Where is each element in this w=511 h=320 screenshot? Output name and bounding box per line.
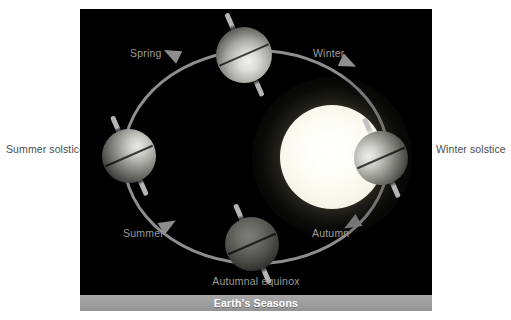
space-panel: Spring Winter Summer Autumn Autumnal equ…: [80, 9, 432, 295]
label-winter-solstice: Winter solstice: [436, 143, 506, 155]
label-summer: Summer: [123, 227, 164, 239]
caption-bar: Earth's Seasons: [80, 295, 432, 311]
earth-equator-line: [357, 147, 405, 170]
earth-equator-line: [228, 233, 276, 256]
label-winter: Winter: [313, 47, 345, 59]
label-autumnal-equinox: Autumnal equinox: [80, 275, 432, 287]
earth-equator-line: [105, 145, 153, 168]
label-summer-solstice: Summer solstice: [6, 143, 85, 155]
earth-equator-line: [219, 43, 269, 66]
earth-seasons-figure: Summer solstice Winter solstice: [0, 0, 511, 320]
label-autumn: Autumn: [312, 227, 349, 239]
caption-title: Earth's Seasons: [214, 297, 298, 309]
label-spring: Spring: [130, 47, 162, 59]
